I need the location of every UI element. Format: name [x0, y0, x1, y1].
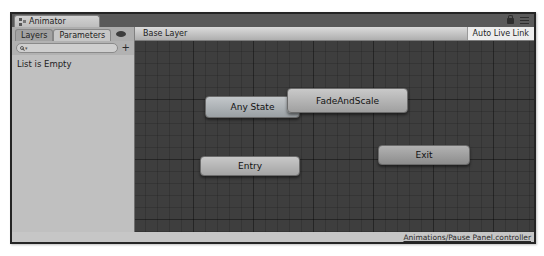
search-filter-caret-icon: ▾: [25, 46, 28, 51]
animator-icon: [19, 18, 26, 26]
window-menu-icon[interactable]: [520, 17, 529, 24]
auto-live-link-button[interactable]: Auto Live Link: [467, 27, 534, 40]
add-parameter-button[interactable]: +: [122, 43, 130, 53]
controller-path: Animations/Pause Panel.controller: [403, 233, 531, 242]
state-node-fade-and-scale[interactable]: FadeAndScale: [287, 88, 408, 113]
tab-layers[interactable]: Layers: [15, 29, 53, 41]
status-bar: Animations/Pause Panel.controller: [12, 232, 534, 242]
tab-animator[interactable]: Animator: [14, 15, 100, 27]
parameter-search-input[interactable]: ▾: [16, 43, 118, 53]
breadcrumb-base-layer[interactable]: Base Layer: [143, 29, 187, 38]
parameter-list-empty-message: List is Empty: [12, 55, 134, 73]
tab-parameters[interactable]: Parameters: [53, 29, 111, 41]
graph-canvas[interactable]: Any StateFadeAndScaleEntryExit: [135, 41, 534, 232]
parameter-search-row: ▾ +: [12, 41, 134, 55]
state-node-any-state[interactable]: Any State: [205, 96, 300, 118]
parameters-panel: ▾ + List is Empty: [12, 41, 135, 232]
lock-icon[interactable]: [507, 18, 514, 24]
breadcrumb-bar: Base Layer Auto Live Link: [135, 27, 534, 41]
state-node-exit[interactable]: Exit: [378, 145, 470, 165]
animator-window: Animator Layers Parameters Base Layer Au…: [10, 12, 536, 244]
state-node-entry[interactable]: Entry: [200, 156, 300, 176]
eye-icon[interactable]: [116, 31, 126, 37]
toolbar-row: Layers Parameters Base Layer Auto Live L…: [12, 27, 534, 41]
search-icon: [20, 46, 24, 50]
tab-animator-label: Animator: [29, 17, 66, 26]
left-panel-tabs: Layers Parameters: [12, 27, 135, 41]
window-tab-bar: Animator: [12, 14, 534, 27]
